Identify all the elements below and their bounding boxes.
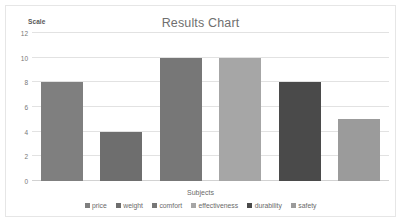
chart-title: Results Chart [6, 16, 395, 30]
bar-series [32, 33, 389, 181]
bar-effectiveness[interactable] [219, 58, 261, 181]
legend-swatch-icon [191, 203, 196, 208]
x-axis-title: Subjects [6, 189, 395, 196]
legend-swatch-icon [152, 203, 157, 208]
legend-label: price [92, 202, 107, 209]
legend-item-price[interactable]: price [85, 202, 107, 209]
y-axis-tick-label: 10 [21, 54, 28, 61]
y-axis-tick-label: 12 [21, 30, 28, 37]
legend-item-weight[interactable]: weight [116, 202, 143, 209]
legend-label: durability [255, 202, 282, 209]
y-axis-tick-label: 0 [24, 178, 28, 185]
plot-area: 121086420 [32, 33, 389, 181]
chart-container: Results Chart Scale 121086420 Subjects p… [5, 5, 396, 217]
y-axis-tick-label: 4 [24, 128, 28, 135]
bar-comfort[interactable] [160, 58, 202, 181]
legend-swatch-icon [116, 203, 121, 208]
legend-label: safety [298, 202, 316, 209]
legend-swatch-icon [85, 203, 90, 208]
legend-label: weight [123, 202, 143, 209]
legend-item-safety[interactable]: safety [291, 202, 317, 209]
bar-price[interactable] [41, 82, 83, 181]
chart-legend: priceweightcomforteffectivenessdurabilit… [6, 202, 395, 209]
legend-swatch-icon [291, 203, 296, 208]
y-axis-tick-label: 6 [24, 104, 28, 111]
legend-item-durability[interactable]: durability [247, 202, 282, 209]
bar-safety[interactable] [338, 119, 380, 181]
legend-swatch-icon [247, 203, 252, 208]
legend-item-effectiveness[interactable]: effectiveness [191, 202, 238, 209]
legend-label: effectiveness [199, 202, 239, 209]
legend-label: comfort [159, 202, 182, 209]
y-axis-title: Scale [28, 18, 46, 25]
bar-weight[interactable] [100, 132, 142, 181]
y-axis-tick-label: 8 [24, 79, 28, 86]
bar-durability[interactable] [279, 82, 321, 181]
legend-item-comfort[interactable]: comfort [152, 202, 182, 209]
y-axis-tick-label: 2 [24, 153, 28, 160]
